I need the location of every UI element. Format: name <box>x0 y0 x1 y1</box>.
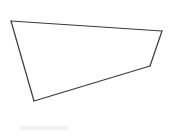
crossed-quadrilateral-figure <box>0 0 169 136</box>
faint-scan-smudge <box>20 126 68 130</box>
figure-canvas <box>0 0 169 136</box>
